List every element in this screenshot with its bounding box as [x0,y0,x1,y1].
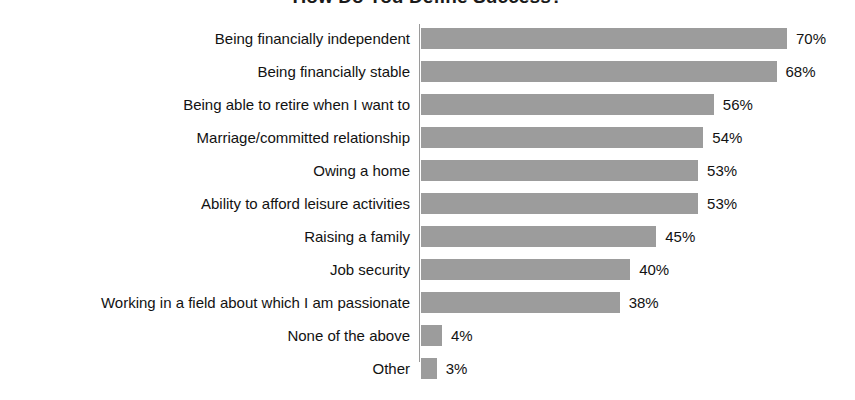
bar [421,358,437,379]
bar-fill [421,358,437,379]
bar-row: None of the above4% [0,325,855,346]
bar-category-label: Being financially stable [0,61,410,82]
bar-value-label: 40% [639,259,669,280]
bar-row: Being able to retire when I want to56% [0,94,855,115]
bar [421,61,777,82]
bar-value-label: 3% [446,358,468,379]
bar-row: Being financially independent70% [0,28,855,49]
bar-category-label: Other [0,358,410,379]
bar [421,325,442,346]
bar-value-label: 54% [712,127,742,148]
bar-row: Ability to afford leisure activities53% [0,193,855,214]
bar-row: Being financially stable68% [0,61,855,82]
bar [421,160,698,181]
bar-fill [421,127,703,148]
bar-category-label: Ability to afford leisure activities [0,193,410,214]
bar-fill [421,28,787,49]
bar [421,226,656,247]
bar [421,28,787,49]
bar-value-label: 70% [796,28,826,49]
bar-chart-plot-area: Being financially independent70%Being fi… [0,24,855,364]
bar-fill [421,226,656,247]
bar-value-label: 4% [451,325,473,346]
bar [421,292,620,313]
bar [421,193,698,214]
bar-category-label: Raising a family [0,226,410,247]
bar-fill [421,61,777,82]
bar-fill [421,94,714,115]
bar-row: Marriage/committed relationship54% [0,127,855,148]
bar-row: Owing a home53% [0,160,855,181]
bar-category-label: None of the above [0,325,410,346]
bar [421,94,714,115]
bar-fill [421,193,698,214]
bar-row: Raising a family45% [0,226,855,247]
bar-category-label: Being financially independent [0,28,410,49]
bar-category-label: Job security [0,259,410,280]
bar-value-label: 53% [707,193,737,214]
bar-fill [421,292,620,313]
bar-category-label: Working in a field about which I am pass… [0,292,410,313]
bar-value-label: 53% [707,160,737,181]
bar-value-label: 45% [665,226,695,247]
bar-row: Job security40% [0,259,855,280]
bar-category-label: Owing a home [0,160,410,181]
bar-category-label: Marriage/committed relationship [0,127,410,148]
bar-value-label: 56% [723,94,753,115]
chart-title: How Do You Define Success? [0,0,855,8]
bar-row: Other3% [0,358,855,379]
bar-fill [421,325,442,346]
bar [421,127,703,148]
bar [421,259,630,280]
bar-row: Working in a field about which I am pass… [0,292,855,313]
bar-value-label: 68% [786,61,816,82]
bar-fill [421,259,630,280]
bar-category-label: Being able to retire when I want to [0,94,410,115]
bar-value-label: 38% [629,292,659,313]
bar-fill [421,160,698,181]
